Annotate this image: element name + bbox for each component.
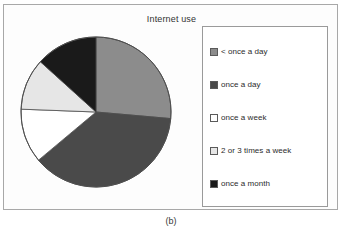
legend-swatch-icon bbox=[210, 81, 218, 89]
legend-swatch-icon bbox=[210, 180, 218, 188]
legend-list: < once a dayonce a dayonce a week2 or 3 … bbox=[210, 35, 323, 200]
legend-swatch-icon bbox=[210, 114, 218, 122]
legend: < once a dayonce a dayonce a week2 or 3 … bbox=[202, 26, 328, 207]
figure-caption: (b) bbox=[0, 216, 342, 226]
pie-slice[interactable] bbox=[96, 37, 171, 119]
legend-item-label: once a week bbox=[221, 113, 266, 122]
pie-chart bbox=[18, 33, 178, 193]
pie-chart-svg bbox=[18, 33, 178, 193]
legend-item[interactable]: once a week bbox=[210, 111, 323, 125]
legend-item[interactable]: < once a day bbox=[210, 45, 323, 59]
pie-slices bbox=[21, 37, 171, 187]
legend-item-label: 2 or 3 times a week bbox=[221, 146, 291, 155]
legend-item[interactable]: 2 or 3 times a week bbox=[210, 144, 323, 158]
legend-swatch-icon bbox=[210, 147, 218, 155]
legend-swatch-icon bbox=[210, 48, 218, 56]
legend-item-label: once a day bbox=[221, 80, 261, 89]
legend-item-label: once a month bbox=[221, 179, 270, 188]
legend-item[interactable]: once a day bbox=[210, 78, 323, 92]
legend-item[interactable]: once a month bbox=[210, 177, 323, 191]
chart-title: Internet use bbox=[4, 14, 339, 24]
figure-container: Internet use < once a dayonce a dayonce … bbox=[0, 0, 342, 237]
legend-item-label: < once a day bbox=[221, 47, 268, 56]
